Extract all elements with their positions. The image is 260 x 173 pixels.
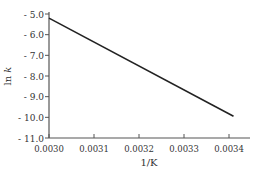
y-ticks: - 5.0- 6.0- 7.0- 8.0- 9.0- 10.0- 11.0 xyxy=(18,10,49,144)
y-tick-label: - 9.0 xyxy=(24,92,44,102)
x-tick-label: 0.0030 xyxy=(34,144,64,154)
data-line xyxy=(49,18,234,116)
chart: - 5.0- 6.0- 7.0- 8.0- 9.0- 10.0- 11.0 0.… xyxy=(0,0,260,173)
y-axis-label-variable: k xyxy=(2,67,13,73)
y-tick-label: - 6.0 xyxy=(24,30,44,40)
y-tick-label: - 10.0 xyxy=(18,113,44,123)
axes xyxy=(49,12,250,138)
x-ticks: 0.00300.00310.00320.00330.0034 xyxy=(34,134,244,154)
x-tick-label: 0.0032 xyxy=(124,144,154,154)
chart-svg: - 5.0- 6.0- 7.0- 8.0- 9.0- 10.0- 11.0 0.… xyxy=(0,0,260,173)
x-tick-label: 0.0031 xyxy=(79,144,109,154)
y-tick-label: - 5.0 xyxy=(24,10,44,20)
y-axis-label: ln k xyxy=(2,67,13,86)
x-tick-label: 0.0034 xyxy=(214,144,244,154)
y-tick-label: - 11.0 xyxy=(18,134,44,144)
y-axis-label-text: ln xyxy=(2,73,13,86)
y-tick-label: - 8.0 xyxy=(24,72,44,82)
x-axis-label: 1/K xyxy=(140,157,158,168)
series xyxy=(49,18,234,116)
x-tick-label: 0.0033 xyxy=(169,144,199,154)
y-tick-label: - 7.0 xyxy=(24,51,44,61)
